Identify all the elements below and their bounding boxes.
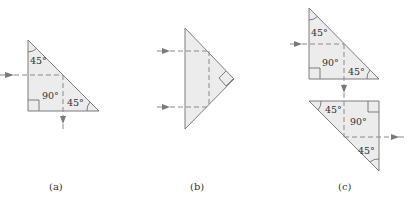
arrow-right-icon [162,48,170,54]
caption-c: (c) [338,181,352,192]
angle-label-top: 45° [311,27,328,38]
angle-label-right-angle: 90° [42,90,59,101]
angle-label-right-angle: 90° [350,116,367,127]
angle-label-bottom-right: 45° [67,97,84,108]
caption-a: (a) [49,181,63,192]
arrow-right-icon [294,41,302,47]
arrow-right-icon [391,134,399,140]
prism-diagram: 45° 90° 45° (a) (b) 45° 90° 45° [0,0,413,202]
panel-a: 45° 90° 45° (a) [0,40,99,192]
arrow-down-icon [341,85,347,93]
arrow-down-icon [60,116,66,124]
angle-label-bottom-right: 45° [348,66,365,77]
angle-label-bottom-right: 45° [358,145,375,156]
caption-b: (b) [190,181,204,192]
angle-label-top-left: 45° [325,104,342,115]
angle-label-top: 45° [30,55,47,66]
angle-label-right-angle: 90° [322,57,339,68]
panel-b: (b) [157,28,234,192]
panel-c: 45° 90° 45° 45° 90° 45° (c) [290,8,404,192]
arrow-right-icon [5,72,14,78]
arrow-right-icon [162,104,170,110]
